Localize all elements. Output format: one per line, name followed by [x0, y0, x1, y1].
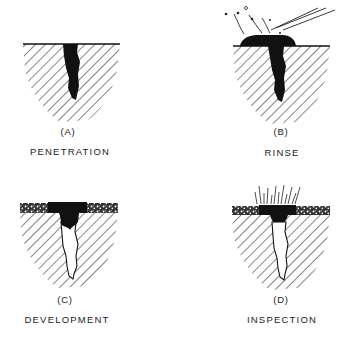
visible-indication-rays: [255, 185, 300, 204]
panel-d-caption: INSPECTION: [247, 314, 317, 325]
panel-a-label: (A): [60, 126, 75, 137]
panel-c-development-drawing: [20, 202, 118, 288]
panel-a-penetration-drawing: [23, 44, 120, 122]
excess-penetrant: [240, 35, 296, 46]
bleed-out-indication: [48, 202, 87, 213]
indication: [259, 205, 296, 215]
rinse-spray: [234, 8, 335, 34]
panel-c-label: (C): [57, 294, 73, 305]
panel-d-inspection-drawing: [232, 185, 330, 290]
panel-d-label: (D): [273, 294, 289, 305]
panel-b-label: (B): [273, 126, 288, 137]
panel-c-caption: DEVELOPMENT: [25, 314, 110, 325]
panel-b-caption: RINSE: [264, 147, 299, 158]
panel-b-rinse-drawing: [225, 7, 335, 125]
penetrant-inspection-diagram: [0, 0, 346, 338]
panel-a-caption: PENETRATION: [30, 146, 110, 157]
